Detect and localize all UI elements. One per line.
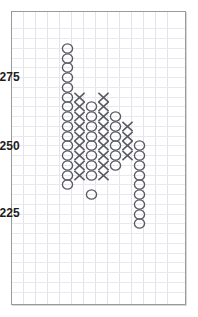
y-axis-tick-label: 275 xyxy=(0,71,20,83)
y-axis-tick-label: 250 xyxy=(0,140,20,152)
pf-symbol-x xyxy=(97,170,110,181)
plot-frame xyxy=(11,11,186,305)
symbol-layer xyxy=(12,12,185,304)
pf-symbol-o xyxy=(109,160,122,171)
point-and-figure-chart: 275250225 xyxy=(0,0,198,317)
pf-symbol-o xyxy=(85,189,98,200)
pf-symbol-o xyxy=(133,218,146,229)
y-axis-tick-label: 225 xyxy=(0,207,20,219)
